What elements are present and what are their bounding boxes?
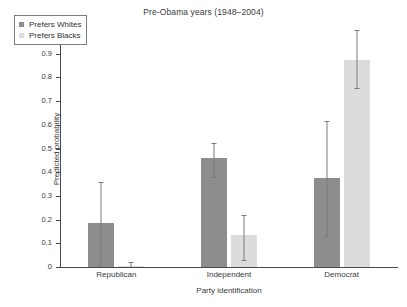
error-bar-cap [324, 236, 329, 237]
error-bar [244, 215, 245, 260]
y-axis-tick-label: 0.2 [8, 215, 52, 224]
bar-democrat-prefers-blacks [344, 60, 370, 267]
x-axis-tick-label: Democrat [324, 270, 359, 279]
y-axis-tick-label: 0.8 [8, 72, 52, 81]
y-axis-tick-label: 0.5 [8, 144, 52, 153]
y-axis-tick [56, 77, 60, 78]
legend-swatch-icon-whites [19, 22, 24, 27]
y-axis-tick [56, 172, 60, 173]
y-axis-tick [56, 196, 60, 197]
error-bar [356, 30, 357, 88]
y-axis-tick [56, 149, 60, 150]
y-axis-tick-label: 0.4 [8, 167, 52, 176]
error-bar [101, 182, 102, 267]
error-bar-cap [242, 215, 247, 216]
y-axis-tick-label: 0.6 [8, 120, 52, 129]
legend-swatch-icon-blacks [19, 33, 24, 38]
error-bar-cap [99, 182, 104, 183]
error-bar-cap [324, 121, 329, 122]
error-bar-cap [129, 262, 134, 263]
legend-item-prefers-whites: Prefers Whites [19, 19, 81, 30]
error-bar-cap [354, 88, 359, 89]
y-axis-tick [56, 101, 60, 102]
y-axis-tick-label: 0.9 [8, 49, 52, 58]
x-axis-tick-label: Independent [207, 270, 252, 279]
x-axis-tick-label: Republican [96, 270, 136, 279]
y-axis-tick-label: 0 [8, 262, 52, 271]
plot-area: Predicted probability Party identificati… [60, 30, 398, 267]
y-axis-tick-label: 0.3 [8, 191, 52, 200]
y-axis-tick [56, 267, 60, 268]
x-axis-line [60, 267, 398, 268]
y-axis-tick-label: 0.7 [8, 96, 52, 105]
error-bar-cap [354, 30, 359, 31]
legend-label-whites: Prefers Whites [29, 20, 81, 29]
x-axis-title: Party identification [60, 286, 398, 295]
error-bar-cap [212, 177, 217, 178]
y-axis-tick [56, 220, 60, 221]
y-axis-tick [56, 243, 60, 244]
legend: Prefers Whites Prefers Blacks [14, 15, 87, 45]
error-bar-cap [242, 260, 247, 261]
legend-item-prefers-blacks: Prefers Blacks [19, 30, 81, 41]
y-axis-tick [56, 125, 60, 126]
legend-label-blacks: Prefers Blacks [29, 31, 81, 40]
y-axis-tick-label: 0.1 [8, 238, 52, 247]
error-bar [326, 121, 327, 236]
figure: Pre-Obama years (1948–2004) Predicted pr… [0, 0, 407, 307]
y-axis-tick [56, 54, 60, 55]
error-bar-cap [212, 143, 217, 144]
error-bar [214, 143, 215, 177]
